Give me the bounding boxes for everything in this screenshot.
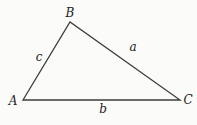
side-label-b: b <box>99 103 107 115</box>
side-label-c: c <box>36 51 43 63</box>
vertex-label-B: B <box>66 7 75 19</box>
triangle-figure: A B C c a b <box>0 0 197 125</box>
side-label-a: a <box>129 41 136 53</box>
vertex-label-A: A <box>9 95 18 107</box>
vertex-label-C: C <box>183 94 192 106</box>
